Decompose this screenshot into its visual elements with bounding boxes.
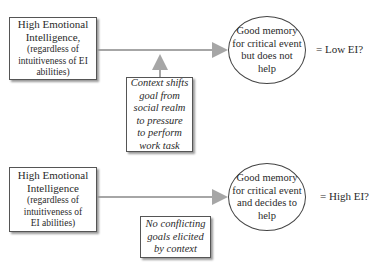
bottom-outcome-line-4: help [258,210,276,223]
bottom-source-box: High Emotional Intelligence (regardless … [9,167,97,232]
bottom-source-title-1: High Emotional [18,169,89,182]
bottom-source-title-2: Intelligence [27,182,79,195]
top-context-line-6: work task [139,140,180,153]
top-outcome-line-1: Good memory [237,25,298,38]
top-context-line-2: goal from [139,90,180,103]
top-source-sub-2: intuitiveness of EI [18,56,88,68]
bottom-context-line-2: goals elicited [147,231,203,244]
top-outcome-line-4: help [258,63,276,76]
top-context-line-4: to pressure [136,115,182,128]
top-context-line-5: to perform [137,127,182,140]
bottom-outcome-line-3: and decides to [237,197,297,210]
top-source-title-2: Intelligence, [26,31,81,44]
top-source-sub-1: (regardless of [27,44,79,56]
bottom-source-sub-1: (regardless of [27,195,79,207]
top-result-label: = Low EI? [316,43,363,55]
top-context-box: Context shifts goal from social realm to… [126,77,193,152]
bottom-source-sub-3: EI abilities) [31,218,76,230]
bottom-context-line-1: No conflicting [146,218,206,231]
bottom-outcome-line-1: Good memory [237,172,298,185]
top-outcome-ellipse: Good memory for critical event but does … [228,16,306,84]
top-outcome-line-3: but does not [241,50,292,63]
bottom-result-label: = High EI? [320,190,369,202]
top-source-sub-3: abilities) [36,67,69,79]
bottom-outcome-ellipse: Good memory for critical event and decid… [228,163,306,231]
top-outcome-line-2: for critical event [232,38,301,51]
top-context-line-3: social realm [134,102,186,115]
top-source-title-1: High Emotional [18,18,89,31]
top-context-line-1: Context shifts [131,77,188,90]
bottom-source-sub-2: intuitiveness of [24,207,82,219]
bottom-context-line-3: by context [154,243,197,256]
bottom-outcome-line-2: for critical event [232,185,301,198]
top-source-box: High Emotional Intelligence, (regardless… [9,17,97,80]
bottom-context-box: No conflicting goals elicited by context [140,216,211,258]
